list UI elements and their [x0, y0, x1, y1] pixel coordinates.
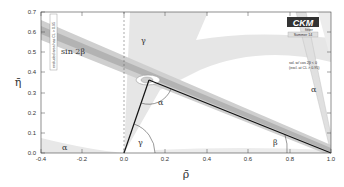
- alpha-region-label-left: α: [62, 143, 68, 152]
- apex-contour-inner: [141, 77, 153, 83]
- svg-text:1.0: 1.0: [327, 156, 336, 162]
- gamma-angle-label: γ: [138, 138, 143, 147]
- svg-text:fitter: fitter: [305, 27, 313, 32]
- x-axis-title: ρ̄: [183, 168, 189, 181]
- svg-text:0.0: 0.0: [28, 150, 37, 156]
- alpha-band-bottom: [41, 138, 124, 153]
- svg-text:0.8: 0.8: [286, 156, 295, 162]
- svg-text:0.5: 0.5: [28, 49, 37, 55]
- svg-text:0.6: 0.6: [244, 156, 253, 162]
- excluded-note: excluded area has CL > 0.95: [52, 22, 56, 68]
- svg-text:0.2: 0.2: [28, 110, 37, 116]
- svg-text:-0.2: -0.2: [77, 156, 88, 162]
- y-axis-title: η̄: [15, 76, 22, 89]
- svg-text:0.0: 0.0: [120, 156, 129, 162]
- gamma-region-label: γ: [141, 36, 146, 45]
- svg-text:0.6: 0.6: [28, 29, 37, 35]
- constraint-regions: [41, 12, 331, 156]
- y-tick-labels: 0.0 0.1 0.2 0.3 0.4 0.5 0.6 0.7: [28, 9, 37, 156]
- svg-text:0.2: 0.2: [161, 156, 170, 162]
- svg-text:0.3: 0.3: [28, 90, 37, 96]
- svg-text:0.7: 0.7: [28, 9, 37, 15]
- svg-text:CKM: CKM: [293, 18, 314, 28]
- sin2beta-label: sin 2β: [61, 47, 85, 56]
- svg-text:-0.4: -0.4: [36, 156, 47, 162]
- svg-text:0.4: 0.4: [28, 69, 37, 75]
- alpha-angle-label: α: [158, 98, 164, 107]
- beta-angle-label: β: [273, 138, 278, 147]
- svg-text:0.4: 0.4: [203, 156, 212, 162]
- x-tick-labels: -0.4 -0.2 0.0 0.2 0.4 0.6 0.8 1.0: [36, 156, 336, 162]
- svg-text:0.1: 0.1: [28, 130, 37, 136]
- cos2beta-note-line2: (excl. at CL > 0.95): [289, 66, 319, 70]
- svg-text:Summer 14: Summer 14: [294, 33, 313, 37]
- ckmfitter-logo: CKM fitter Summer 14: [287, 17, 319, 37]
- cos2beta-note-line1: sol. w/ cos 2β < 0: [289, 61, 317, 65]
- ckm-plot: -0.4 -0.2 0.0 0.2 0.4 0.6 0.8 1.0 0.0 0.…: [0, 0, 344, 187]
- alpha-region-label-right: α: [311, 85, 317, 94]
